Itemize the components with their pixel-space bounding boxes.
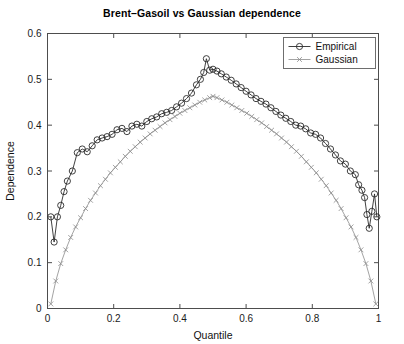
x-tick-label: 0.2 (107, 313, 121, 324)
data-series (48, 56, 380, 307)
x-tick-label: 0.4 (173, 313, 187, 324)
series-path (51, 96, 376, 304)
y-axis-title: Dependence (4, 141, 16, 201)
x-axis-title: Quantile (193, 329, 232, 341)
legend-item-label: Empirical (316, 41, 357, 52)
y-tick-label: 0.6 (28, 28, 42, 39)
legend-item-label: Gaussian (316, 54, 358, 65)
x-tick-label: 0.6 (239, 313, 253, 324)
chart-legend[interactable]: EmpiricalGaussian (284, 38, 376, 69)
y-tick-label: 0.2 (28, 211, 42, 222)
plot-canvas: 00.20.40.60.8100.10.20.30.40.50.6 Empiri… (0, 0, 404, 344)
x-tick-label: 1 (376, 313, 382, 324)
plot-frame (48, 34, 379, 309)
y-tick-label: 0 (36, 303, 42, 314)
x-tick-label: 0.8 (305, 313, 319, 324)
y-tick-label: 0.4 (28, 120, 42, 131)
y-tick-label: 0.1 (28, 257, 42, 268)
axes: 00.20.40.60.8100.10.20.30.40.50.6 (28, 28, 382, 323)
series-empirical (48, 56, 380, 246)
chart-figure: Brent–Gasoil vs Gaussian dependence 00.2… (0, 0, 404, 344)
series-gaussian (48, 94, 378, 306)
y-tick-label: 0.5 (28, 74, 42, 85)
x-tick-label: 0 (45, 313, 51, 324)
y-tick-label: 0.3 (28, 166, 42, 177)
